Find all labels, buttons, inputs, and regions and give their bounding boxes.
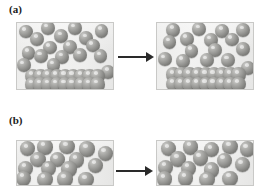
sediment-particle <box>231 77 245 90</box>
free-particle <box>236 23 250 37</box>
free-particle <box>41 22 55 35</box>
free-particle <box>37 172 52 186</box>
free-particle <box>163 35 177 49</box>
box-a-before <box>16 22 114 90</box>
free-particle <box>240 141 254 156</box>
free-particle <box>236 42 250 56</box>
free-particle <box>158 52 172 66</box>
free-particle <box>222 171 237 186</box>
free-particle <box>178 170 193 185</box>
figure-root: (a) (b) <box>0 0 270 189</box>
free-particle <box>16 171 31 186</box>
free-particle <box>34 49 48 63</box>
box-b-after <box>156 140 254 186</box>
free-particle <box>78 172 93 186</box>
arrow-shaft <box>118 56 147 58</box>
free-particle <box>88 158 103 173</box>
free-particle <box>200 53 214 67</box>
arrow-head <box>146 52 154 62</box>
box-a-after <box>156 22 254 90</box>
panel-a-label: (a) <box>9 4 22 15</box>
box-b-before <box>16 140 114 186</box>
right-arrow-b <box>116 166 154 177</box>
panel-b: (b) <box>0 97 270 189</box>
panel-a: (a) <box>0 0 270 97</box>
arrow-head <box>145 166 153 176</box>
free-particle <box>57 171 72 186</box>
free-particle <box>235 157 250 172</box>
panel-b-label: (b) <box>9 115 22 126</box>
free-particle <box>176 54 190 68</box>
free-particle <box>157 171 172 186</box>
sediment-particle <box>90 77 104 90</box>
free-particle <box>30 32 44 46</box>
arrow-shaft <box>116 170 146 172</box>
free-particle <box>95 24 109 38</box>
free-particle <box>192 22 206 36</box>
free-particle <box>221 53 235 67</box>
free-particle <box>94 49 108 63</box>
free-particle <box>217 153 232 168</box>
free-particle <box>199 172 214 186</box>
free-particle <box>73 48 87 62</box>
right-arrow-a <box>118 52 154 63</box>
